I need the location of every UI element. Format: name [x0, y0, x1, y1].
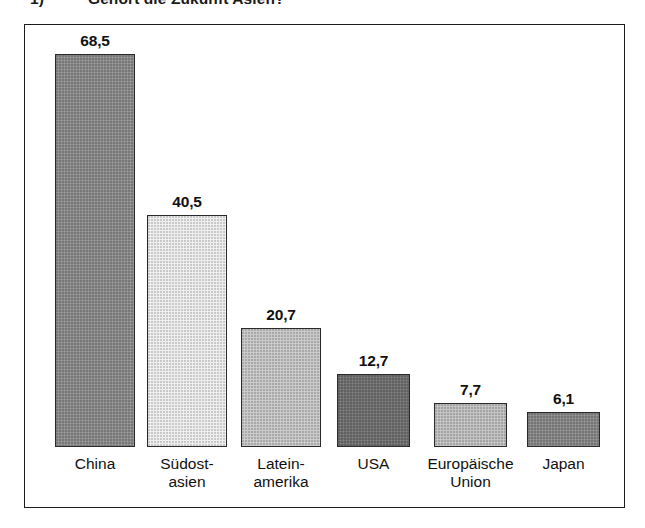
- bar-rect[interactable]: [434, 403, 507, 447]
- bar-group: 12,7USA: [337, 23, 410, 507]
- bar-rect[interactable]: [55, 54, 135, 447]
- bar-value-label: 7,7: [434, 381, 507, 399]
- bar-value-label: 40,5: [147, 193, 227, 211]
- bar-value-label: 20,7: [241, 306, 321, 324]
- bar-group: 40,5Südost- asien: [147, 23, 227, 507]
- bar-value-label: 6,1: [527, 390, 600, 408]
- bar-chart-plot-area: 68,5China40,5Südost- asien20,7Latein- am…: [25, 25, 624, 507]
- chart-frame: 68,5China40,5Südost- asien20,7Latein- am…: [24, 24, 625, 508]
- caption-text: Gehört die Zukunft Asien?: [88, 0, 285, 7]
- bar-value-label: 68,5: [55, 32, 135, 50]
- bar-value-label: 12,7: [337, 352, 410, 370]
- bar-group: 68,5China: [55, 23, 135, 507]
- figure-caption: 1)Gehört die Zukunft Asien?: [0, 0, 645, 14]
- bar-rect[interactable]: [147, 215, 227, 447]
- bar-rect[interactable]: [241, 328, 321, 447]
- bar-rect[interactable]: [337, 374, 410, 447]
- bar-group: 7,7Europäische Union: [434, 23, 507, 507]
- bar-group: 6,1Japan: [527, 23, 600, 507]
- bar-category-label: Japan: [501, 455, 626, 473]
- caption-number: 1): [30, 0, 44, 8]
- bar-rect[interactable]: [527, 412, 600, 447]
- bar-group: 20,7Latein- amerika: [241, 23, 321, 507]
